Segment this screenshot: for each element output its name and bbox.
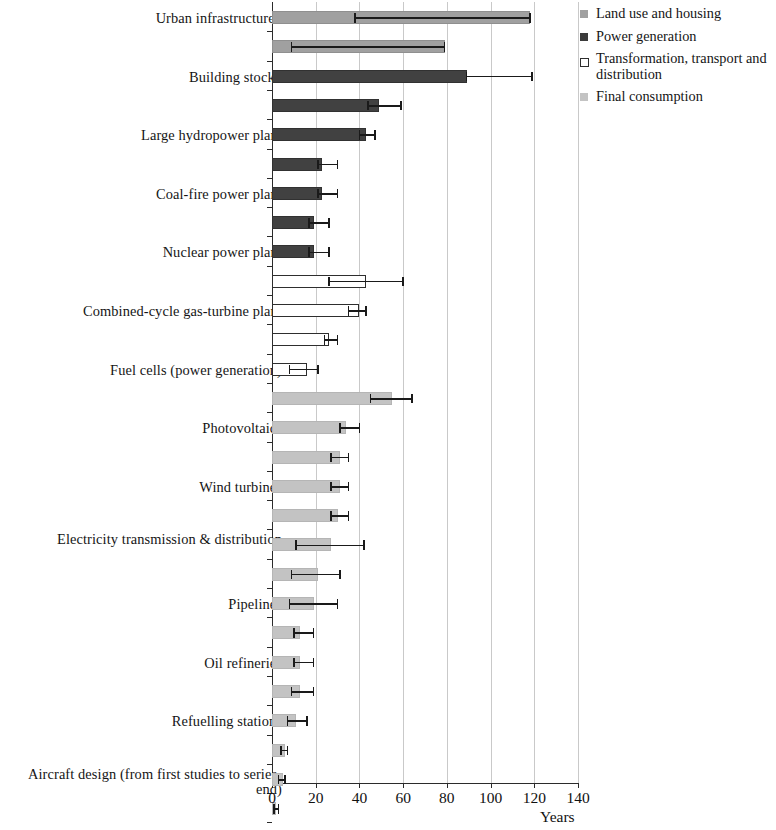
chart-row: Steel plant [0, 500, 776, 529]
error-bar-cap-high [337, 335, 339, 345]
x-axis-title: Years [540, 808, 630, 826]
bar-chart: Urban infrastructure*Building stock*Larg… [0, 0, 776, 830]
legend-swatch-icon-land [580, 10, 588, 18]
bar [272, 333, 329, 346]
chart-row: Nuclear power plant [0, 119, 776, 148]
error-bar [349, 310, 366, 312]
legend-item-transformation-transport-and-distribution: Transformation, transport and distributi… [578, 51, 776, 82]
error-bar-cap-low [291, 570, 293, 580]
error-bar-cap-high [444, 42, 446, 52]
error-bar [294, 662, 314, 664]
y-axis-label: Urban infrastructure* [10, 11, 282, 26]
chart-row: Fuel cells (power generation) [0, 178, 776, 207]
error-bar [329, 281, 403, 283]
chart-row: Consumer electronics [0, 705, 776, 734]
chart-row: Commercial heating and cooling equipment [0, 588, 776, 617]
error-bar [331, 457, 348, 459]
bar [272, 245, 314, 258]
error-bar [340, 427, 360, 429]
chart-row: Combined-cycle gas-turbine plant [0, 149, 776, 178]
y-tick-27 [267, 822, 272, 823]
error-bar-cap-low [354, 13, 356, 23]
error-bar [331, 515, 348, 517]
chart-row: Aircraft design (from first studies to s… [0, 383, 776, 412]
bar-container [272, 559, 578, 588]
bar [272, 304, 359, 317]
error-bar-cap-low [324, 335, 326, 345]
error-bar-cap-high [363, 540, 365, 550]
error-bar-cap-low [291, 687, 293, 697]
error-bar-cap-high [313, 658, 315, 668]
error-bar-cap-high [348, 482, 350, 492]
error-bar-cap-high [328, 218, 330, 228]
error-bar-cap-high [400, 101, 402, 111]
chart-row: Light bulbs (fluorescent) [0, 735, 776, 764]
chart-row: Electricity transmission & distribution [0, 266, 776, 295]
error-bar-cap-low [330, 511, 332, 521]
bar-container [272, 647, 578, 676]
bar [272, 509, 338, 522]
legend-swatch-icon-transform [580, 58, 589, 67]
x-tick-label-140: 140 [548, 789, 608, 807]
bar [272, 187, 322, 200]
bar-container [272, 266, 578, 295]
chart-row: Photovoltaics [0, 207, 776, 236]
bar-container [272, 705, 578, 734]
bar-container [272, 90, 578, 119]
chart-row: Passenger cars [0, 617, 776, 646]
error-bar-cap-low [289, 365, 291, 375]
error-bar [324, 339, 337, 341]
error-bar-cap-high [374, 130, 376, 140]
bar-container [272, 383, 578, 412]
chart-row: Oil refineries [0, 324, 776, 353]
legend-label-final: Final consumption [596, 88, 703, 104]
error-bar-cap-high [337, 189, 339, 199]
error-bar [309, 222, 329, 224]
bar-container [272, 207, 578, 236]
error-bar [289, 369, 317, 371]
error-bar [355, 17, 530, 19]
error-bar-cap-high [328, 247, 330, 257]
error-bar-cap-low [317, 160, 319, 170]
bar-container [272, 295, 578, 324]
bar-container [272, 735, 578, 764]
error-bar [467, 76, 533, 78]
error-bar-cap-low [278, 775, 280, 785]
chart-row: Pipelines [0, 295, 776, 324]
chart-row: Cement plant [0, 412, 776, 441]
error-bar [289, 603, 337, 605]
bar-container [272, 119, 578, 148]
error-bar-cap-low [308, 247, 310, 257]
bar-container [272, 412, 578, 441]
error-bar [309, 252, 329, 254]
error-bar-cap-low [293, 658, 295, 668]
chart-row: Aircraft (operating lifetime) [0, 442, 776, 471]
error-bar [370, 398, 412, 400]
chart-row: Petrochemical plant [0, 471, 776, 500]
legend-label-land: Land use and housing [596, 5, 721, 21]
error-bar-cap-low [370, 394, 372, 404]
error-bar-cap-high [337, 160, 339, 170]
bar-container [272, 236, 578, 265]
error-bar-cap-high [339, 570, 341, 580]
error-bar [296, 545, 364, 547]
error-bar-cap-low [291, 42, 293, 52]
error-bar-cap-high [402, 277, 404, 287]
chart-row: Refuelling stations [0, 354, 776, 383]
error-bar [292, 574, 340, 576]
error-bar-cap-high [317, 365, 319, 375]
error-bar [318, 164, 338, 166]
error-bar-cap-high [337, 599, 339, 609]
legend-item-final-consumption: Final consumption [578, 89, 776, 105]
error-bar-cap-low [466, 72, 468, 82]
error-bar-cap-low [330, 482, 332, 492]
error-bar-cap-high [306, 716, 308, 726]
bar-container [272, 61, 578, 90]
error-bar-cap-low [359, 130, 361, 140]
bar-container [272, 500, 578, 529]
bar [272, 421, 346, 434]
error-bar-cap-low [367, 101, 369, 111]
bar-container [272, 471, 578, 500]
error-bar-cap-high [529, 13, 531, 23]
bar-container [272, 178, 578, 207]
